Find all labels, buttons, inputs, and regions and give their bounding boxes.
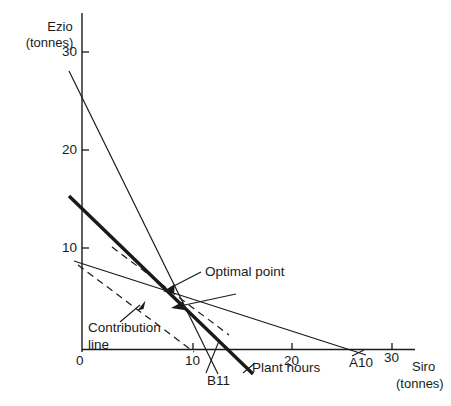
x-tick-label-0: 0 [76,353,84,368]
x-axis-title: Siro [412,359,435,374]
x-tick-label-10: 10 [185,353,200,368]
y-axis-title: Ezio [33,19,87,34]
y-tick-label-30: 30 [53,44,77,59]
b11-leader [206,341,219,373]
y-tick-label-10: 10 [53,240,77,255]
linear-programming-graph: Ezio (tonnes) Siro (tonnes) 30 20 10 0 1… [0,0,451,406]
b11-label: B11 [207,373,230,388]
y-tick-label-20: 20 [53,142,77,157]
plant-hours-label: Plant hours [252,360,320,375]
chart-canvas [0,0,451,406]
optimal-point-label: Optimal point [205,264,285,279]
x-axis-unit: (tonnes) [396,376,444,391]
contribution-line-label-2: line [88,337,109,352]
contribution-line-label-1: Contribution [88,320,161,335]
a10-label: A10 [349,355,373,370]
x-tick-label-30: 30 [384,350,399,365]
